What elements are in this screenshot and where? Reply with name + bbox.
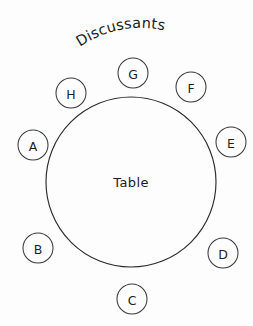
seat-a-label: A — [29, 139, 38, 154]
seat-f[interactable]: F — [176, 72, 206, 102]
diagram-title-textpath: Discussants — [73, 15, 167, 50]
seat-b[interactable]: B — [23, 233, 53, 263]
round-table-diagram: Discussants Table A B C D E — [0, 0, 253, 326]
seat-d[interactable]: D — [208, 238, 238, 268]
diagram-title: Discussants — [73, 15, 167, 50]
seat-e[interactable]: E — [216, 127, 246, 157]
seat-a[interactable]: A — [18, 130, 48, 160]
seat-f-label: F — [187, 81, 194, 96]
seat-b-label: B — [34, 242, 43, 257]
table-label: Table — [112, 175, 149, 190]
seat-c-label: C — [128, 293, 137, 308]
seat-e-label: E — [227, 136, 235, 151]
seat-h[interactable]: H — [56, 78, 86, 108]
seat-g-label: G — [128, 67, 138, 82]
seat-g[interactable]: G — [118, 58, 148, 88]
diagram-canvas: Discussants Table A B C D E — [0, 0, 253, 326]
seat-d-label: D — [218, 247, 228, 262]
seat-c[interactable]: C — [117, 284, 147, 314]
seat-h-label: H — [66, 87, 75, 102]
